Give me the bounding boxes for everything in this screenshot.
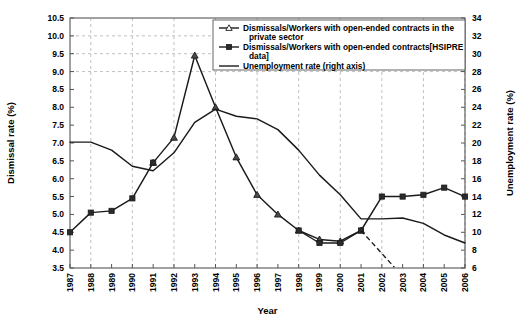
y2-axis-title: Unemployment rate (%) xyxy=(504,90,515,196)
x-axis-tick-label: 1995 xyxy=(231,273,241,292)
legend-square-marker xyxy=(227,45,232,50)
y2-axis-tick-label: 24 xyxy=(472,102,482,112)
y2-axis-tick-label: 8 xyxy=(472,245,477,255)
series-marker-1 xyxy=(379,194,384,199)
chart-figure: 3.54.04.55.05.56.06.57.07.58.08.59.09.51… xyxy=(0,0,526,319)
x-axis-tick-label: 1996 xyxy=(252,273,262,292)
x-axis-tick-label: 2001 xyxy=(356,273,366,292)
x-axis-tick-label: 1988 xyxy=(86,273,96,292)
y2-axis-tick-label: 14 xyxy=(472,192,482,202)
legend-label-cont-1: data] xyxy=(249,51,269,61)
series-marker-1 xyxy=(151,160,156,165)
x-axis-tick-label: 1997 xyxy=(273,273,283,292)
y-axis-tick-label: 6.5 xyxy=(52,156,64,166)
x-axis-tick-label: 1991 xyxy=(148,273,158,292)
y2-axis-tick-label: 22 xyxy=(472,120,482,130)
series-marker-1 xyxy=(338,240,343,245)
y-axis-tick-label: 6.0 xyxy=(52,174,64,184)
y-axis-tick-label: 8.5 xyxy=(52,84,64,94)
y2-axis-tick-label: 28 xyxy=(472,67,482,77)
series-marker-1 xyxy=(421,192,426,197)
x-axis-tick-label: 2006 xyxy=(460,273,470,292)
y-axis-tick-label: 7.0 xyxy=(52,138,64,148)
y-axis-tick-label: 10.5 xyxy=(47,13,64,23)
x-axis-tick-label: 1994 xyxy=(211,273,221,292)
x-axis-tick-label: 2002 xyxy=(377,273,387,292)
x-axis-tick-label: 2004 xyxy=(418,273,428,292)
y2-axis-tick-label: 10 xyxy=(472,227,482,237)
x-axis-tick-label: 1999 xyxy=(314,273,324,292)
series-marker-1 xyxy=(67,230,72,235)
x-axis-tick-label: 1989 xyxy=(107,273,117,292)
series-marker-1 xyxy=(296,228,301,233)
y2-axis-tick-label: 18 xyxy=(472,156,482,166)
y2-axis-tick-label: 32 xyxy=(472,31,482,41)
y2-axis-tick-label: 26 xyxy=(472,84,482,94)
y-axis-tick-label: 10.0 xyxy=(47,31,64,41)
x-axis-tick-label: 1993 xyxy=(190,273,200,292)
y2-axis-tick-label: 12 xyxy=(472,209,482,219)
x-axis-tick-label: 2000 xyxy=(335,273,345,292)
y-axis-title: Dismissal rate (%) xyxy=(5,102,16,184)
series-marker-1 xyxy=(400,194,405,199)
x-axis-tick-label: 1992 xyxy=(169,273,179,292)
y-axis-tick-label: 3.5 xyxy=(52,263,64,273)
x-axis-title: Year xyxy=(257,305,277,316)
series-marker-1 xyxy=(442,185,447,190)
series-marker-1 xyxy=(130,196,135,201)
x-axis-tick-label: 2003 xyxy=(398,273,408,292)
x-axis-tick-label: 1987 xyxy=(65,273,75,292)
y-axis-tick-label: 8.0 xyxy=(52,102,64,112)
y2-axis-tick-label: 30 xyxy=(472,49,482,59)
y2-axis-tick-label: 6 xyxy=(472,263,477,273)
y-axis-tick-label: 4.5 xyxy=(52,227,64,237)
x-axis-tick-label: 1998 xyxy=(294,273,304,292)
legend-label-2: Unemployment rate (right axis) xyxy=(243,61,365,71)
series-marker-1 xyxy=(88,210,93,215)
y-axis-tick-label: 7.5 xyxy=(52,120,64,130)
series-marker-1 xyxy=(462,194,467,199)
legend-label-cont-0: private sector xyxy=(249,32,304,42)
y-axis-tick-label: 5.5 xyxy=(52,192,64,202)
y-axis-tick-label: 4.0 xyxy=(52,245,64,255)
series-marker-1 xyxy=(109,208,114,213)
y-axis-tick-label: 9.5 xyxy=(52,49,64,59)
x-axis-tick-label: 1990 xyxy=(127,273,137,292)
x-axis-tick-label: 2005 xyxy=(439,273,449,292)
legend-label-1: Dismissals/Workers with open-ended contr… xyxy=(243,42,464,52)
series-marker-1 xyxy=(317,240,322,245)
y-axis-tick-label: 5.0 xyxy=(52,209,64,219)
y2-axis-tick-label: 34 xyxy=(472,13,482,23)
y2-axis-tick-label: 20 xyxy=(472,138,482,148)
y2-axis-tick-label: 16 xyxy=(472,174,482,184)
dismissal-unemployment-line-chart: 3.54.04.55.05.56.06.57.07.58.08.59.09.51… xyxy=(0,0,526,319)
y-axis-tick-label: 9.0 xyxy=(52,67,64,77)
